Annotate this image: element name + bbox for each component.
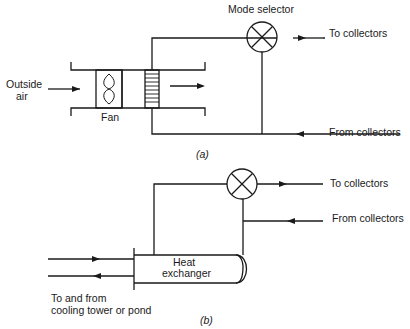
from-collectors-b-label: From collectors [332,212,404,224]
cooling-label-2: cooling tower or pond [51,304,151,316]
caption-a: (a) [196,148,209,160]
fan-label: Fan [101,111,119,123]
diagram-a-duct [71,62,205,116]
outside-air-label-1: Outside [6,78,42,90]
fan-icon [104,74,115,104]
heat-exchanger-label-2: exchanger [162,267,211,279]
mode-selector-label: Mode selector [228,3,294,15]
from-collectors-a-label: From collectors [329,126,401,138]
caption-b: (b) [200,314,213,326]
to-collectors-a-label: To collectors [329,27,387,39]
coil-lines [145,74,159,102]
cooling-label-1: To and from [51,292,106,304]
outside-air-label-2: air [16,90,28,102]
diagram-canvas [0,0,410,329]
to-collectors-b-label: To collectors [330,177,388,189]
